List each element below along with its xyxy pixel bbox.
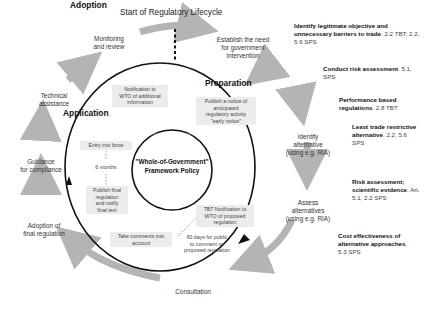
phase-adoption: Adoption: [70, 0, 107, 10]
step-text: final regulation: [14, 230, 74, 238]
box-text: Publish a notice of: [199, 98, 253, 105]
box-text: regulatory activity: [199, 111, 253, 118]
arrowhead-application: [66, 176, 72, 185]
step-text: and review: [84, 43, 134, 51]
arrow-guidance-to-technical: [41, 120, 42, 138]
step-adoption-final-regulation: Adoption of final regulation: [14, 222, 74, 238]
note-reference: . 2.8 TBT: [372, 104, 397, 111]
box-text: Notification to: [115, 86, 165, 93]
box-text: WTO of additional: [115, 93, 165, 100]
note-scientific-evidence: Risk assessment; scientific evidence. Ar…: [352, 178, 424, 202]
step-text: Monitoring: [84, 35, 134, 43]
step-text: (using e.g. RIA): [276, 215, 340, 223]
step-identify-alternative: Identify alternative (using e.g. RIA): [276, 133, 340, 157]
step-text: assistance: [30, 100, 78, 108]
box-text: 60 days for public: [178, 234, 236, 241]
box-take-comments: Take comments into account: [110, 232, 172, 247]
step-text: Technical: [30, 92, 78, 100]
note-performance-based: Performance based regulations. 2.8 TBT: [339, 96, 425, 112]
phase-application: Application: [63, 108, 109, 118]
box-notification-additional-info: Notification to WTO of additional inform…: [112, 85, 168, 107]
step-text: alternative: [276, 141, 340, 149]
step-text: Identify: [276, 133, 340, 141]
box-text: regulation: [199, 219, 251, 226]
framework-policy-label: "Whole-of-Government" Framework Policy: [134, 158, 210, 175]
step-monitoring-review: Monitoring and review: [84, 35, 134, 51]
step-text: Guidance: [12, 158, 70, 166]
box-text: Take comments into: [113, 233, 169, 240]
step-text: alternatives: [276, 207, 340, 215]
arrow-assess-to-consultation: [248, 220, 292, 262]
step-text: for compliance: [12, 166, 70, 174]
box-text: anticipated: [199, 105, 253, 112]
box-publish-final-regulation: Publish final regulation and notify fina…: [86, 186, 128, 214]
note-risk-assessment: Conduct risk assessment. 5.1, SPS: [323, 65, 423, 81]
box-early-notice: Publish a notice of anticipated regulato…: [196, 97, 256, 125]
step-text: for government: [208, 44, 278, 52]
note-heading: Identify legitimate objective and unnece…: [294, 22, 388, 37]
step-text: intervention: [208, 52, 278, 60]
arrow-technical-to-monitoring: [68, 65, 86, 80]
step-consultation: Consultation: [158, 288, 228, 296]
note-heading: Cost effectiveness of alternative approa…: [338, 232, 405, 247]
box-text: final text: [89, 207, 125, 214]
phase-preparation: Preparation: [205, 78, 252, 88]
arrow-monitoring-to-establish: [140, 25, 198, 32]
step-text: Adoption of: [14, 222, 74, 230]
box-entry-into-force: Entry into force: [80, 141, 132, 150]
box-text: proposed regulation: [178, 247, 236, 254]
box-text: and notify: [89, 200, 125, 207]
outer-arrows: [41, 25, 307, 278]
step-text: Assess: [276, 199, 340, 207]
note-cost-effectiveness: Cost effectiveness of alternative approa…: [338, 232, 414, 256]
step-assess-alternatives: Assess alternatives (using e.g. RIA): [276, 199, 340, 223]
label-sixty-days: 60 days for public to comment on propose…: [178, 234, 236, 254]
step-establish-need: Establish the need for government interv…: [208, 36, 278, 60]
step-text: (using e.g. RIA): [276, 149, 340, 157]
box-text: to comment on: [178, 241, 236, 248]
note-least-trade-restrictive: Least trade restrictive alternative. 2.2…: [352, 123, 420, 147]
step-technical-assistance: Technical assistance: [30, 92, 78, 108]
box-text: Publish final: [89, 187, 125, 194]
box-text: "early notice": [199, 118, 253, 125]
arrow-establish-to-identify: [261, 63, 274, 73]
box-text: information: [115, 99, 165, 106]
note-heading: Risk assessment; scientific evidence: [352, 178, 407, 193]
framework-line-2: Framework Policy: [134, 167, 210, 176]
step-text: Establish the need: [208, 36, 278, 44]
arrowhead-adoption-tbt: [238, 234, 250, 244]
box-tbt-notification: TBT Notification to WTO of proposed regu…: [196, 205, 254, 227]
box-text: regulation: [89, 194, 125, 201]
lifecycle-title: Start of Regulatory Lifecycle: [120, 8, 222, 17]
note-heading: Conduct risk assessment: [323, 65, 398, 72]
note-legitimate-objective: Identify legitimate objective and unnece…: [294, 22, 424, 46]
box-text: account: [113, 240, 169, 247]
step-guidance: Guidance for compliance: [12, 158, 70, 174]
arrow-to-identify: [296, 86, 300, 106]
box-text: TBT Notification to: [199, 206, 251, 213]
framework-line-1: "Whole-of-Government": [134, 158, 210, 167]
label-six-months: 6 months: [88, 164, 124, 171]
box-text: WTO of proposed: [199, 213, 251, 220]
